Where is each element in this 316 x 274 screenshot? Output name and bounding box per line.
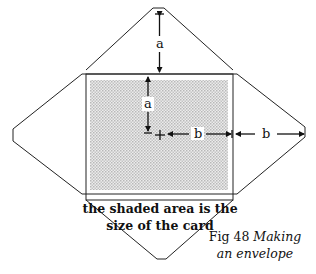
left-flap (13, 74, 82, 194)
figure-title-line1: Making (253, 229, 301, 244)
inner-a-label: a (144, 96, 152, 111)
figure-number: Fig 48 (209, 229, 250, 244)
top-a-label: a (156, 36, 164, 51)
figure-caption: Fig 48 Making an envelope (200, 228, 310, 262)
figure-title-line2: an envelope (200, 245, 310, 262)
envelope-diagram: a a b b the shaded area is the size of t… (0, 0, 316, 274)
inner-b-label: b (194, 126, 202, 141)
shaded-note-line1: the shaded area is the (80, 200, 240, 217)
outer-b-label: b (262, 126, 270, 141)
